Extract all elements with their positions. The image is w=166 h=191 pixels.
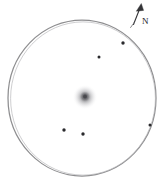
field-stars <box>62 41 151 135</box>
north-arrow: N <box>131 4 149 28</box>
star-point <box>62 128 65 131</box>
astronomy-sketch-canvas: N <box>0 0 166 191</box>
nebula-nucleus <box>83 95 87 99</box>
deep-sky-object <box>73 85 98 110</box>
star-point <box>98 56 101 59</box>
star-point <box>149 124 152 127</box>
sketch-drawing: N <box>0 0 166 191</box>
star-point <box>121 41 124 44</box>
north-arrow-head <box>136 4 143 12</box>
star-point <box>81 132 84 135</box>
north-label: N <box>142 16 149 26</box>
